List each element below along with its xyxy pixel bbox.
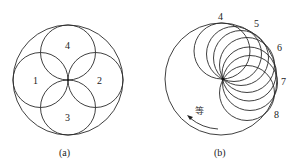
circle-4 — [41, 25, 96, 80]
label-b-5: 5 — [254, 18, 259, 29]
label-4: 4 — [65, 40, 70, 51]
label-2: 2 — [97, 75, 102, 86]
figure-a: 1 2 3 4 (a) — [13, 25, 123, 159]
diagram-canvas: 1 2 3 4 (a) 4 5 6 7 8 等 (b) — [0, 0, 294, 165]
position-circle-7 — [223, 56, 278, 111]
caption-a: (a) — [59, 147, 70, 159]
label-b-4: 4 — [218, 11, 223, 22]
caption-b: (b) — [214, 147, 226, 159]
figure-b: 4 5 6 7 8 等 (b) — [165, 11, 286, 159]
label-b-6: 6 — [277, 42, 282, 53]
circle-1 — [13, 53, 68, 108]
label-1: 1 — [33, 75, 38, 86]
circle-2 — [68, 53, 123, 108]
center-point-a — [67, 79, 69, 81]
rotation-arrow — [190, 118, 218, 129]
label-b-8: 8 — [274, 109, 279, 120]
position-circle-8 — [220, 66, 275, 121]
label-3: 3 — [65, 112, 70, 123]
label-b-7: 7 — [281, 76, 286, 87]
circle-3 — [41, 80, 96, 135]
annotation-text: 等 — [195, 105, 204, 116]
position-circle-6 — [220, 38, 275, 93]
pivot-point — [221, 77, 224, 80]
position-circle-5a — [207, 27, 262, 82]
